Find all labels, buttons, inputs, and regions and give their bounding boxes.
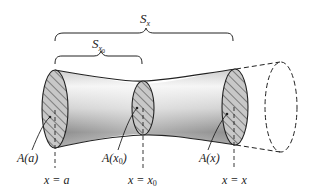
brace-inner-label: Sx0 bbox=[92, 36, 105, 54]
position-label-x: x = x bbox=[221, 173, 247, 187]
extension-cross-section bbox=[265, 62, 297, 152]
position-label-a: x = a bbox=[43, 173, 69, 187]
brace-outer bbox=[55, 28, 233, 41]
brace-outer-label: Sx bbox=[140, 11, 151, 28]
pointer-x0-dot bbox=[136, 107, 139, 110]
area-label-x0: A(x0) bbox=[101, 151, 127, 166]
pointer-a-dot bbox=[49, 116, 52, 119]
cross-section-x bbox=[222, 69, 248, 145]
extension-top-edge bbox=[236, 62, 280, 69]
diagram-canvas: Sx Sx0 A(a) A(x0) A(x) x = a x = x0 x = … bbox=[0, 0, 318, 194]
area-label-a: A(a) bbox=[16, 151, 38, 165]
pointer-x-dot bbox=[226, 113, 229, 116]
position-label-x0: x = x0 bbox=[127, 173, 157, 188]
cross-section-a bbox=[42, 70, 68, 148]
area-label-x: A(x) bbox=[198, 151, 220, 165]
